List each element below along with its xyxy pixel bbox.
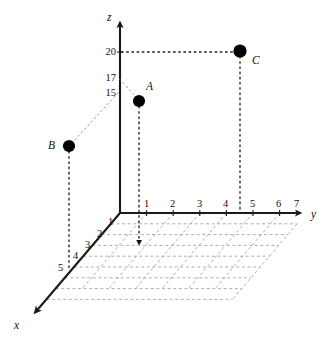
leader-15-to-b xyxy=(72,93,119,144)
a-foot-arrow xyxy=(136,240,142,246)
leader-17-to-a xyxy=(120,79,138,98)
point-b-dot xyxy=(63,140,75,152)
grid-lines-constant-x xyxy=(46,224,297,300)
y-tick-3: 3 xyxy=(197,198,202,209)
axes-svg xyxy=(0,0,329,343)
y-axis-label: y xyxy=(311,209,316,220)
z-tick-15: 15 xyxy=(101,87,116,98)
y-tick-7: 7 xyxy=(294,198,299,209)
x-tick-1: 1 xyxy=(108,216,113,227)
x-tick-2: 2 xyxy=(97,228,102,239)
z-tick-17: 17 xyxy=(101,72,116,83)
y-tick-2: 2 xyxy=(170,198,175,209)
z-axis-label: z xyxy=(107,12,111,23)
data-points xyxy=(63,44,247,152)
point-c-dot xyxy=(233,44,246,57)
x-tick-4: 4 xyxy=(73,250,78,261)
point-c-label: C xyxy=(252,55,260,66)
x-tick-5: 5 xyxy=(58,262,63,273)
projection-lines xyxy=(69,52,240,271)
y-tick-4: 4 xyxy=(223,198,228,209)
coordinate-system-figure: z y x 20 17 15 1 2 3 4 5 6 7 1 2 3 4 5 A… xyxy=(0,0,329,343)
x-axis-label: x xyxy=(14,320,19,331)
axis-lines xyxy=(36,24,299,312)
z-tick-20: 20 xyxy=(98,46,116,57)
x-axis xyxy=(36,213,120,312)
y-tick-5: 5 xyxy=(250,198,255,209)
y-tick-1: 1 xyxy=(144,198,149,209)
point-b-label: B xyxy=(48,140,55,151)
point-a-label: A xyxy=(146,81,153,92)
point-a-dot xyxy=(133,95,145,107)
y-tick-6: 6 xyxy=(276,198,281,209)
x-tick-3: 3 xyxy=(85,239,90,250)
